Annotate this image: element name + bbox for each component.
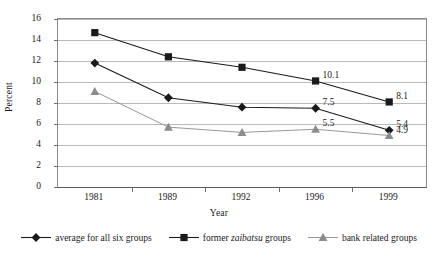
legend-item[interactable]: former zaibatsu groups [169, 232, 291, 243]
square-marker [165, 53, 172, 60]
legend-label: bank related groups [342, 233, 417, 243]
x-tick-label: 1999 [358, 192, 418, 202]
y-tick-label: 8 [1, 98, 41, 108]
x-tick-mark [205, 187, 206, 192]
data-point-label: 8.1 [396, 92, 408, 102]
x-axis-title: Year [0, 208, 438, 218]
x-tick-label: 1989 [137, 192, 197, 202]
legend-label: average for all six groups [55, 233, 152, 243]
y-tick-label: 16 [1, 14, 41, 24]
data-point-label: 5.5 [323, 119, 335, 129]
square-legend-icon [169, 232, 199, 243]
triangle-marker [164, 123, 173, 131]
y-tick-mark [54, 187, 58, 188]
line-chart: Percent 0246810121416 7.55.410.18.15.54.… [0, 0, 438, 262]
x-tick-label: 1981 [64, 192, 124, 202]
legend-item[interactable]: bank related groups [308, 232, 417, 243]
legend-label: former zaibatsu groups [203, 233, 291, 243]
plot-area: 0246810121416 7.55.410.18.15.54.9 [57, 18, 427, 188]
series-layer [58, 19, 426, 187]
square-marker [386, 98, 393, 105]
diamond-marker [90, 59, 99, 68]
series-line [95, 63, 389, 130]
square-marker [238, 64, 245, 71]
square-marker [180, 234, 187, 241]
diamond-marker [238, 103, 247, 112]
triangle-marker [90, 87, 99, 95]
square-marker [91, 29, 98, 36]
data-point-label: 4.9 [396, 126, 408, 136]
legend-item[interactable]: average for all six groups [21, 232, 152, 243]
y-tick-label: 14 [1, 35, 41, 45]
diamond-legend-icon [21, 232, 51, 243]
data-point-label: 7.5 [323, 98, 335, 108]
data-point-label: 10.1 [323, 71, 340, 81]
y-tick-label: 0 [1, 182, 41, 192]
x-tick-mark [279, 187, 280, 192]
y-axis-title: Percent [4, 67, 14, 127]
y-tick-label: 10 [1, 77, 41, 87]
y-tick-label: 12 [1, 56, 41, 66]
diamond-marker [164, 93, 173, 102]
x-tick-label: 1996 [285, 192, 345, 202]
x-tick-mark [352, 187, 353, 192]
x-tick-label: 1992 [211, 192, 271, 202]
y-tick-label: 2 [1, 161, 41, 171]
triangle-marker [311, 125, 320, 133]
triangle-legend-icon [308, 232, 338, 243]
y-tick-label: 6 [1, 119, 41, 129]
square-marker [312, 77, 319, 84]
y-tick-label: 4 [1, 140, 41, 150]
x-tick-mark [132, 187, 133, 192]
chart-legend: average for all six groupsformer zaibats… [0, 232, 438, 243]
diamond-marker [311, 104, 320, 113]
diamond-marker [32, 233, 41, 242]
